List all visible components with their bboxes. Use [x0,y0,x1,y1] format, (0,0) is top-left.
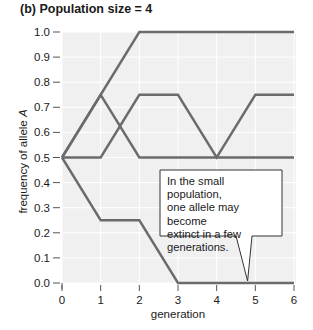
x-tick-label: 6 [291,294,297,306]
x-tick-label: 2 [136,294,142,306]
y-tick-label: 0.6 [34,126,50,138]
callout-text: In the small population, one allele may … [160,170,278,232]
x-tick-label: 3 [175,294,181,306]
y-axis-label: frequency of allele A [17,109,29,214]
x-tick-label: 4 [213,294,220,306]
y-tick-label: 1.0 [34,26,50,38]
y-tick-label: 0.8 [34,76,50,88]
x-tick-label: 1 [97,294,103,306]
y-tick-label: 0.1 [34,252,50,264]
y-tick-label: 0.3 [34,202,50,214]
y-axis: 0.00.10.20.30.40.50.60.70.80.91.0 [34,26,62,289]
y-tick-label: 0.2 [34,227,50,239]
x-tick-label: 0 [59,294,65,306]
y-tick-label: 0.9 [34,51,50,63]
line-chart: 0.00.10.20.30.40.50.60.70.80.91.0 012345… [0,0,313,330]
x-axis-label: generation [151,308,205,320]
y-tick-label: 0.7 [34,101,50,113]
x-tick-label: 5 [252,294,258,306]
y-tick-label: 0.0 [34,277,50,289]
x-axis: 0123456 [59,285,297,306]
y-tick-label: 0.4 [34,177,51,189]
y-tick-label: 0.5 [34,152,50,164]
